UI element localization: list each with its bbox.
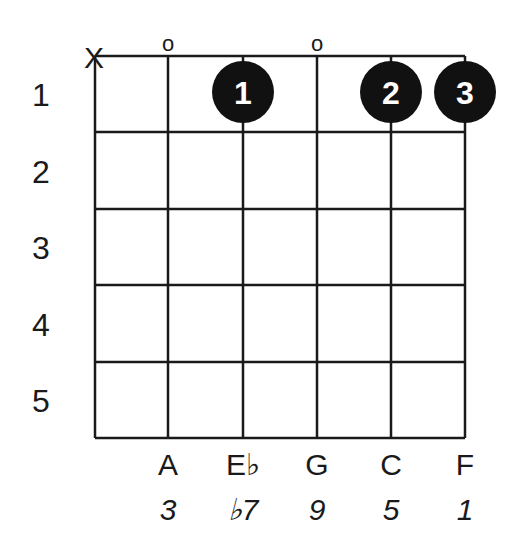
open-string-icon: o	[162, 31, 174, 56]
finger-number: 2	[382, 75, 400, 111]
scale-degree: 3	[160, 493, 177, 526]
finger-dots: 123	[212, 61, 496, 123]
fret-number: 5	[32, 383, 50, 419]
fret-number: 3	[32, 230, 50, 266]
note-name: G	[305, 448, 328, 481]
muted-string-icon: X	[84, 41, 104, 74]
note-name: C	[380, 448, 402, 481]
scale-degree: 9	[309, 493, 326, 526]
finger-number: 1	[234, 75, 252, 111]
note-labels: A3E♭♭7G9C5F1	[158, 448, 474, 526]
scale-degree: 1	[457, 493, 474, 526]
note-name: A	[158, 448, 178, 481]
open-string-icon: o	[311, 31, 323, 56]
note-name: E♭	[226, 448, 260, 481]
fret-numbers: 12345	[32, 77, 50, 419]
fret-number: 1	[32, 77, 50, 113]
note-name: F	[456, 448, 474, 481]
string-markers: Xoo	[84, 31, 323, 74]
finger-number: 3	[456, 75, 474, 111]
scale-degree: 5	[383, 493, 400, 526]
scale-degree: ♭7	[228, 493, 260, 526]
chord-diagram: Xoo 12345 123 A3E♭♭7G9C5F1	[0, 0, 525, 551]
fret-number: 2	[32, 154, 50, 190]
fret-number: 4	[32, 307, 50, 343]
